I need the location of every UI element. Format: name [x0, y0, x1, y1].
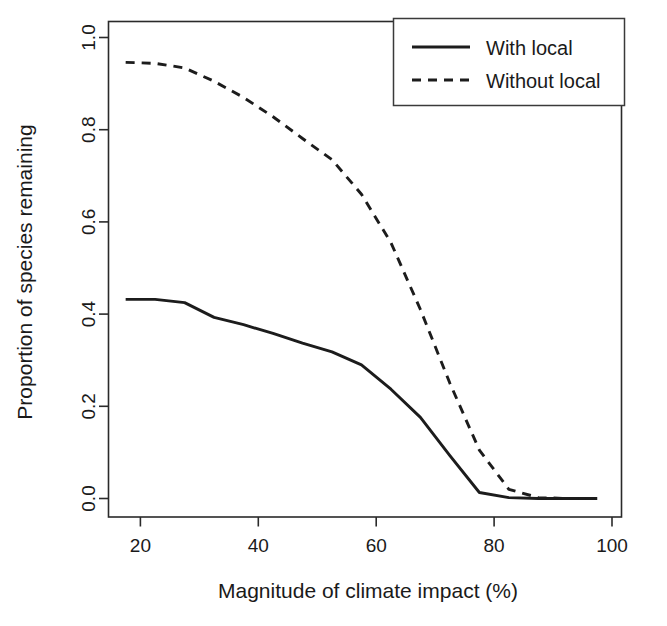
series-line-without-local: [126, 62, 598, 498]
y-tick-label-1.0: 1.0: [78, 24, 99, 50]
x-axis-ticks: [140, 517, 612, 527]
legend[interactable]: With local Without local: [394, 19, 625, 106]
y-tick-label-0.6: 0.6: [78, 209, 99, 235]
legend-label-with-local: With local: [486, 37, 573, 59]
y-tick-label-0.2: 0.2: [78, 393, 99, 419]
x-axis-title: Magnitude of climate impact (%): [218, 579, 518, 602]
series-group: [126, 62, 598, 498]
x-tick-label-60: 60: [366, 535, 387, 556]
x-tick-label-100: 100: [596, 535, 628, 556]
x-tick-label-40: 40: [248, 535, 269, 556]
y-tick-label-0.0: 0.0: [78, 485, 99, 511]
x-tick-label-80: 80: [484, 535, 505, 556]
y-axis-title: Proportion of species remaining: [13, 124, 36, 419]
line-chart-canvas: 1.0 0.8 0.6 0.4 0.2 0.0 20 40 60 80 100 …: [0, 0, 667, 626]
legend-label-without-local: Without local: [486, 70, 601, 92]
x-axis-tick-labels: 20 40 60 80 100: [130, 535, 628, 556]
y-axis-ticks: [99, 38, 109, 499]
y-axis-tick-labels: 1.0 0.8 0.6 0.4 0.2 0.0: [78, 24, 99, 511]
y-tick-label-0.8: 0.8: [78, 116, 99, 142]
series-line-with-local: [126, 299, 598, 498]
x-tick-label-20: 20: [130, 535, 151, 556]
chart-figure: 1.0 0.8 0.6 0.4 0.2 0.0 20 40 60 80 100 …: [0, 0, 667, 626]
y-tick-label-0.4: 0.4: [78, 300, 99, 327]
legend-box: [394, 19, 625, 106]
